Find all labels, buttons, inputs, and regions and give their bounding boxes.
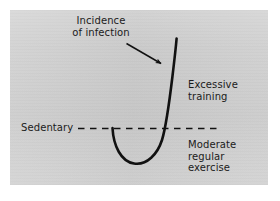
label-moderate-line3: exercise [188,162,230,173]
incidence-arrow [127,44,162,64]
label-moderate-line2: regular [188,151,224,162]
label-incidence-line2: of infection [72,27,129,38]
label-excessive-training: Excessivetraining [188,79,238,102]
label-excessive-line1: Excessive [188,79,238,90]
label-excessive-line2: training [188,91,228,102]
j-curve [113,39,177,164]
label-moderate-line1: Moderate [188,139,236,150]
label-incidence-of-infection: Incidenceof infection [64,15,138,38]
label-moderate-regular-exercise: Moderateregularexercise [188,139,236,174]
diagram-artwork [0,0,280,201]
label-sedentary: Sedentary [21,122,73,134]
label-incidence-line1: Incidence [77,15,126,26]
figure-container: Incidenceof infection Excessivetraining … [0,0,280,201]
